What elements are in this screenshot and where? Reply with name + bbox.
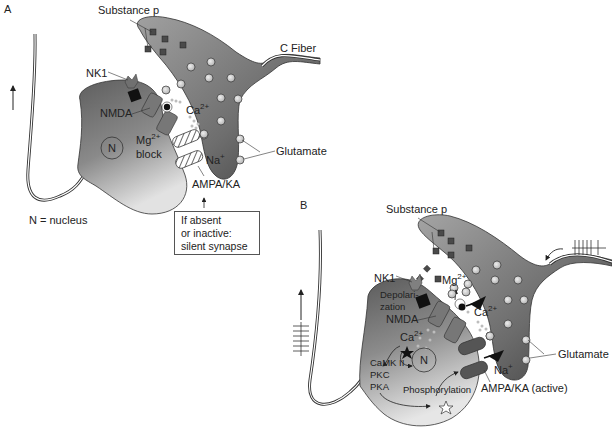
ampa-receptor-a-inactive <box>171 128 208 170</box>
c-fiber-label: C Fiber <box>280 42 316 54</box>
glutamate-label-a: Glutamate <box>276 145 327 157</box>
mg-ion-block-icon <box>164 104 170 110</box>
nucleus-legend: N = nucleus <box>29 214 88 226</box>
mg-label-b: Mg2+ <box>442 272 467 286</box>
note-line-3: silent synapse <box>181 240 253 253</box>
block-label-a: block <box>136 148 162 160</box>
diagram-canvas: A Substance p C Fiber <box>0 0 612 434</box>
panel-b-label: B <box>300 199 307 211</box>
nmda-label-b: NMDA <box>386 313 419 325</box>
action-potential-train-icon <box>293 322 309 356</box>
note-line-2: or inactive: <box>181 227 253 240</box>
kinase-pkc-label: PKC <box>370 369 390 380</box>
note-line-1: If absent <box>181 214 253 227</box>
nk1-label-b: NK1 <box>374 272 395 284</box>
nmda-label-a: NMDA <box>100 107 133 119</box>
kinase-pka-label: PKA <box>370 381 390 392</box>
axon-a <box>28 34 86 200</box>
depolarization-label-2: zation <box>380 301 405 312</box>
kinase-camkii-label: CaMK II <box>370 357 404 368</box>
glutamate-label-b: Glutamate <box>558 348 609 360</box>
nk1-label-a: NK1 <box>86 67 107 79</box>
nucleus-label-b: N <box>420 354 428 366</box>
substance-p-label-b: Substance p <box>386 203 447 215</box>
nucleus-label-a: N <box>108 142 116 154</box>
ampa-label-b: AMPA/KA (active) <box>481 382 568 394</box>
panel-a: A Substance p C Fiber <box>4 3 327 226</box>
ampa-label-a: AMPA/KA <box>192 178 241 190</box>
substance-p-label-a: Substance p <box>98 4 159 16</box>
action-potential-train-icon-b <box>572 240 606 255</box>
panel-a-label: A <box>4 3 12 15</box>
depolarization-label-1: Depolari- <box>380 289 419 300</box>
panel-b: B <box>293 199 612 426</box>
silent-synapse-note: If absent or inactive: silent synapse <box>174 211 260 255</box>
